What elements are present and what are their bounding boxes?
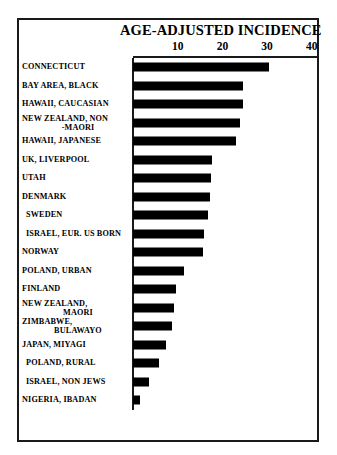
bar-track [133,137,236,146]
bar-plot-area: CONNECTICUTBAY AREA, BLACKHAWAII, CAUCAS… [0,0,337,455]
bar-track [133,303,174,312]
bar-row: FINLAND [0,280,337,299]
bar-track [133,100,243,109]
bar [133,174,211,183]
category-label: POLAND, RURAL [26,359,132,368]
bar [133,100,243,109]
bar-row: NIGERIA, IBADAN [0,391,337,410]
category-label: UTAH [22,174,128,183]
bar-row: UK, LIVERPOOL [0,151,337,170]
bar-track [133,248,203,257]
category-label: ISRAEL, EUR. US BORN [26,229,132,238]
bar [133,137,236,146]
bar-track [133,322,172,331]
bar-track [133,377,149,386]
bar-track [133,285,176,294]
bar-track [133,359,159,368]
chart-figure: AGE-ADJUSTED INCIDENCE 10203040 CONNECTI… [0,0,337,455]
bar-row: ISRAEL, EUR. US BORN [0,225,337,244]
category-label: NIGERIA, IBADAN [22,396,128,405]
category-label: UK, LIVERPOOL [22,155,128,164]
bar-track [133,266,184,275]
category-label: FINLAND [22,285,128,294]
bar-row: CONNECTICUT [0,58,337,77]
bar-row: ZIMBABWE,BULAWAYO [0,317,337,336]
bar-row: SWEDEN [0,206,337,225]
bar-track [133,63,269,72]
category-label: JAPAN, MIYAGI [22,340,128,349]
bar [133,340,166,349]
category-label: HAWAII, JAPANESE [22,137,128,146]
bar-track [133,340,166,349]
bar-row: BAY AREA, BLACK [0,77,337,96]
bar-track [133,192,210,201]
category-label: POLAND, URBAN [22,266,128,275]
bar-track [133,174,211,183]
category-label: BAY AREA, BLACK [22,81,128,90]
bar [133,229,204,238]
bar [133,248,203,257]
category-label: ZIMBABWE,BULAWAYO [22,317,128,335]
bar [133,81,243,90]
category-label: NEW ZEALAND, NON-MAORI [22,114,128,132]
bar [133,303,174,312]
bar [133,322,172,331]
bar-row: NEW ZEALAND, NON-MAORI [0,114,337,133]
category-label: CONNECTICUT [22,63,128,72]
bar [133,285,176,294]
bar [133,155,212,164]
bar-row: POLAND, RURAL [0,354,337,373]
bar [133,377,149,386]
bar [133,396,140,405]
bar-row: HAWAII, JAPANESE [0,132,337,151]
bar-row: HAWAII, CAUCASIAN [0,95,337,114]
bar-track [133,396,140,405]
bar [133,63,269,72]
bar-row: JAPAN, MIYAGI [0,336,337,355]
bar-row: NORWAY [0,243,337,262]
bar-track [133,81,243,90]
category-label: ISRAEL, NON JEWS [26,377,132,386]
bar-row: ISRAEL, NON JEWS [0,373,337,392]
bar-row: POLAND, URBAN [0,262,337,281]
bar-track [133,229,204,238]
bar-row: UTAH [0,169,337,188]
category-label: DENMARK [22,192,128,201]
bar-row: DENMARK [0,188,337,207]
bar [133,118,240,127]
bar-track [133,211,208,220]
bar [133,359,159,368]
bar [133,211,208,220]
bar-track [133,155,212,164]
bar [133,266,184,275]
category-label: HAWAII, CAUCASIAN [22,100,128,109]
bar-row: NEW ZEALAND,MAORI [0,299,337,318]
category-label: SWEDEN [26,211,132,220]
bar [133,192,210,201]
bar-track [133,118,240,127]
category-label: NEW ZEALAND,MAORI [22,299,128,317]
category-label: NORWAY [22,248,128,257]
